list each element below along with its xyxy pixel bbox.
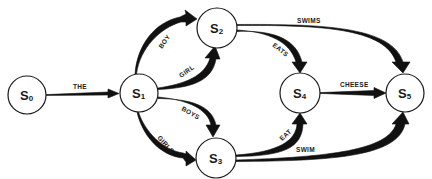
state-s4: S4: [280, 73, 320, 113]
edge-label-the: THE: [73, 83, 87, 90]
edge-label-swim: SWIM: [296, 146, 315, 153]
edge-label-boy: BOY: [157, 33, 172, 50]
edge-girl: GIRL: [158, 46, 220, 90]
edge-girls: GIRLS: [137, 112, 196, 166]
edge-boys: BOYS: [158, 97, 220, 137]
state-s5: S5: [386, 74, 424, 112]
edge-label-swims: SWIMS: [297, 17, 321, 24]
state-s1: S1: [120, 74, 158, 112]
edge-cheese: CHEESE: [320, 81, 386, 99]
state-s2: S2: [197, 8, 237, 48]
edge-eats: EATS: [237, 30, 307, 73]
state-s3: S3: [196, 138, 236, 178]
edge-swims: SWIMS: [237, 17, 410, 73]
state-diagram: THE BOY GIRL BOYS GIRLS EATS SWIMS EAT S…: [0, 0, 432, 179]
state-s0: S0: [8, 76, 46, 114]
edge-boy: BOY: [135, 10, 197, 74]
edge-label-cheese: CHEESE: [340, 81, 369, 88]
edge-label-girl: GIRL: [178, 63, 196, 78]
edge-the: THE: [46, 83, 119, 98]
